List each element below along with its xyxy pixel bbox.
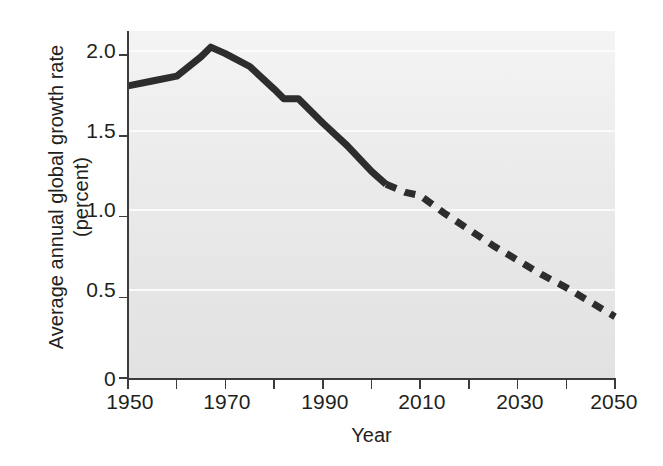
x-tick-1980 (273, 380, 275, 389)
y-tick-0-5 (119, 297, 128, 299)
y-axis-title-line2: (percent) (69, 0, 94, 397)
y-tick-0 (119, 377, 128, 379)
y-tick-1 (119, 216, 128, 218)
x-axis-tick-labels: 1950 1970 1990 2010 2030 2050 (0, 390, 663, 420)
plot-area (128, 31, 615, 378)
y-axis-line (127, 31, 129, 380)
y-axis-title: Average annual global growth rate (perce… (44, 0, 94, 397)
x-tick-2010 (419, 380, 421, 389)
x-axis-title: Year (128, 423, 615, 447)
x-tick-label-1990: 1990 (280, 390, 370, 414)
x-tick-label-1950: 1950 (85, 390, 175, 414)
historical-line (128, 47, 386, 184)
x-tick-2000 (371, 380, 373, 389)
series-lines (128, 31, 615, 378)
x-tick-label-1970: 1970 (182, 390, 272, 414)
x-tick-1990 (322, 380, 324, 389)
x-tick-2040 (566, 380, 568, 389)
x-tick-1970 (225, 380, 227, 389)
x-tick-2050 (614, 380, 616, 389)
x-tick-2020 (468, 380, 470, 389)
projection-line (386, 184, 615, 316)
x-tick-1950 (127, 380, 129, 389)
x-tick-label-2030: 2030 (475, 390, 565, 414)
y-tick-1-5 (119, 135, 128, 137)
growth-rate-line-chart: 2.0 1.5 1.0 0.5 0 1950 1970 1990 2010 20… (0, 0, 663, 466)
x-tick-1960 (176, 380, 178, 389)
x-tick-label-2010: 2010 (377, 390, 467, 414)
x-tick-label-2050: 2050 (569, 390, 659, 414)
y-tick-2 (119, 54, 128, 56)
x-tick-2030 (517, 380, 519, 389)
y-axis-title-line1: Average annual global growth rate (44, 0, 69, 397)
